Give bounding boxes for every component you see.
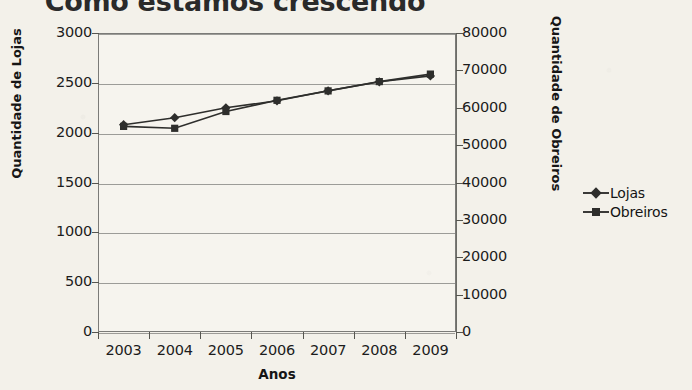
left-axis-tick-label: 0 (32, 323, 92, 339)
gridline (99, 333, 455, 334)
x-axis-tick-label: 2003 (98, 342, 150, 358)
x-axis-tick-label: 2004 (149, 342, 201, 358)
right-axis-tick-mark (456, 183, 463, 184)
right-axis-tick-mark (456, 70, 463, 71)
x-axis-tick-mark (251, 332, 252, 339)
right-axis-tick-label: 10000 (462, 286, 542, 302)
gridline (99, 184, 455, 185)
square-marker-icon (583, 206, 609, 218)
right-axis-tick-label: 0 (462, 323, 542, 339)
left-axis-tick-label: 3000 (32, 24, 92, 40)
right-axis-tick-label: 60000 (462, 99, 542, 115)
left-axis-title: Quantidade de Lojas (9, 14, 24, 194)
x-axis-tick-mark (354, 332, 355, 339)
right-axis-tick-mark (456, 220, 463, 221)
right-axis-tick-mark (456, 108, 463, 109)
x-axis-tick-label: 2009 (404, 342, 456, 358)
left-axis-tick-mark (92, 232, 99, 233)
left-axis-tick-mark (92, 33, 99, 34)
x-axis-title: Anos (98, 366, 456, 382)
x-axis-tick-mark (149, 332, 150, 339)
right-axis-tick-label: 40000 (462, 174, 542, 190)
x-axis-tick-label: 2005 (200, 342, 252, 358)
legend-item-lojas[interactable]: Lojas (583, 183, 668, 202)
left-axis-tick-label: 500 (32, 273, 92, 289)
right-axis-tick-label: 50000 (462, 136, 542, 152)
x-axis-tick-label: 2008 (353, 342, 405, 358)
gridline (99, 84, 455, 85)
right-axis-tick-label: 80000 (462, 24, 542, 40)
left-axis-ticks: 050010001500200025003000 (30, 33, 92, 332)
right-axis-tick-label: 30000 (462, 211, 542, 227)
right-axis-tick-mark (456, 295, 463, 296)
left-axis-tick-mark (92, 83, 99, 84)
diamond-marker-icon (583, 187, 609, 199)
legend-item-label: Lojas (610, 185, 645, 201)
left-axis-tick-mark (92, 282, 99, 283)
chart-legend: LojasObreiros (583, 183, 668, 221)
left-axis-tick-label: 1500 (32, 174, 92, 190)
gridline (99, 283, 455, 284)
x-axis-tick-label: 2006 (251, 342, 303, 358)
x-axis-tick-mark (200, 332, 201, 339)
x-axis-tick-mark (303, 332, 304, 339)
x-axis-tick-mark (98, 332, 99, 339)
left-axis-tick-label: 1000 (32, 223, 92, 239)
gridline (99, 233, 455, 234)
legend-item-obreiros[interactable]: Obreiros (583, 202, 668, 221)
right-axis-ticks: 0100002000030000400005000060000700008000… (462, 33, 542, 332)
gridline (99, 134, 455, 135)
gridline (99, 34, 455, 35)
left-axis-tick-label: 2500 (32, 74, 92, 90)
right-axis-tick-mark (456, 33, 463, 34)
right-axis-title: Quantidade de Obreiros (549, 14, 564, 194)
plot-area (98, 33, 456, 332)
x-axis-tick-label: 2007 (302, 342, 354, 358)
x-axis-ticks: 2003200420052006200720082009 (98, 332, 456, 333)
right-axis-tick-label: 70000 (462, 61, 542, 77)
left-axis-tick-label: 2000 (32, 124, 92, 140)
right-axis-tick-label: 20000 (462, 248, 542, 264)
left-axis-tick-mark (92, 183, 99, 184)
x-axis-tick-mark (405, 332, 406, 339)
right-axis-tick-mark (456, 257, 463, 258)
chart-title: Como estamos crescendo (0, 0, 470, 17)
legend-item-label: Obreiros (610, 204, 668, 220)
x-axis-tick-mark (456, 332, 457, 339)
right-axis-tick-mark (456, 332, 463, 333)
right-axis-tick-mark (456, 145, 463, 146)
left-axis-tick-mark (92, 133, 99, 134)
